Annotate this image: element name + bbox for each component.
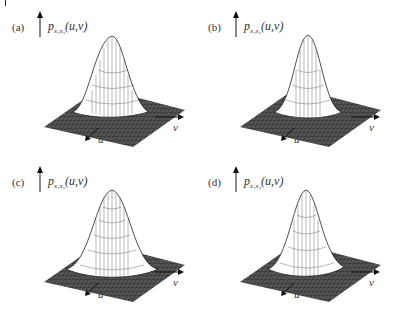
v-axis-label: v [369, 121, 374, 133]
surface-plot-d [196, 155, 394, 310]
panel-b: (b) px₁x₂(u,v) v u [196, 0, 394, 155]
panel-label: (a) [12, 21, 24, 33]
z-axis-label: px₁x₂(u,v) [48, 174, 87, 190]
u-axis-label: u [294, 288, 300, 300]
panel-label: (d) [208, 176, 221, 188]
surface-plot-c [0, 155, 198, 310]
panel-d: (d) px₁x₂(u,v) v u [196, 155, 394, 310]
v-axis-label: v [173, 276, 178, 288]
panel-a: (a) px₁x₂(u,v) v u [0, 0, 198, 155]
z-axis-label: px₁x₂(u,v) [244, 174, 283, 190]
z-axis-label: px₁x₂(u,v) [48, 19, 87, 35]
surface-plot-a [0, 0, 198, 155]
panel-label: (b) [208, 21, 221, 33]
v-axis-label: v [369, 276, 374, 288]
z-axis-label: px₁x₂(u,v) [244, 19, 283, 35]
u-axis-label: u [294, 133, 300, 145]
u-axis-label: u [98, 133, 104, 145]
panel-label: (c) [12, 176, 24, 188]
surface-plot-b [196, 0, 394, 155]
v-axis-label: v [173, 121, 178, 133]
u-axis-label: u [98, 288, 104, 300]
panel-c: (c) px₁x₂(u,v) v u [0, 155, 198, 310]
